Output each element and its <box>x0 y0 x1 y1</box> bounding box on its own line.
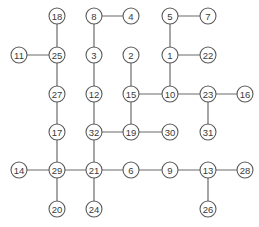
graph-diagram: 1884571125321222712151023161732193031142… <box>0 0 259 227</box>
node-label: 29 <box>52 165 63 176</box>
node-label: 20 <box>52 204 63 215</box>
node-label: 17 <box>52 127 63 138</box>
node-label: 14 <box>14 165 25 176</box>
node-28: 28 <box>237 162 253 178</box>
node-18: 18 <box>49 8 65 24</box>
node-1: 1 <box>162 47 178 63</box>
node-label: 11 <box>14 50 24 61</box>
node-26: 26 <box>200 201 216 217</box>
node-label: 26 <box>203 204 214 215</box>
node-12: 12 <box>86 86 102 102</box>
node-25: 25 <box>49 47 65 63</box>
node-10: 10 <box>162 86 178 102</box>
node-27: 27 <box>49 86 65 102</box>
node-label: 21 <box>89 165 100 176</box>
node-6: 6 <box>123 162 139 178</box>
node-8: 8 <box>86 8 102 24</box>
node-label: 27 <box>52 89 63 100</box>
node-label: 31 <box>203 127 214 138</box>
node-label: 3 <box>91 50 96 61</box>
node-label: 25 <box>52 50 63 61</box>
node-label: 30 <box>165 127 176 138</box>
node-16: 16 <box>237 86 253 102</box>
node-23: 23 <box>200 86 216 102</box>
node-label: 5 <box>167 11 172 22</box>
node-31: 31 <box>200 124 216 140</box>
node-label: 2 <box>128 50 133 61</box>
node-label: 4 <box>128 11 133 22</box>
node-15: 15 <box>123 86 139 102</box>
node-label: 16 <box>240 89 251 100</box>
node-24: 24 <box>86 201 102 217</box>
node-29: 29 <box>49 162 65 178</box>
node-label: 28 <box>240 165 251 176</box>
node-3: 3 <box>86 47 102 63</box>
node-label: 18 <box>52 11 63 22</box>
edges-layer <box>19 16 245 209</box>
node-label: 12 <box>89 89 100 100</box>
node-label: 15 <box>126 89 137 100</box>
node-label: 32 <box>89 127 100 138</box>
node-32: 32 <box>86 124 102 140</box>
node-13: 13 <box>200 162 216 178</box>
node-label: 22 <box>203 50 214 61</box>
node-14: 14 <box>11 162 27 178</box>
node-9: 9 <box>162 162 178 178</box>
node-22: 22 <box>200 47 216 63</box>
node-21: 21 <box>86 162 102 178</box>
nodes-layer: 1884571125321222712151023161732193031142… <box>11 8 253 217</box>
node-7: 7 <box>200 8 216 24</box>
node-label: 23 <box>203 89 214 100</box>
node-17: 17 <box>49 124 65 140</box>
node-19: 19 <box>123 124 139 140</box>
node-label: 8 <box>91 11 96 22</box>
node-label: 13 <box>203 165 214 176</box>
node-label: 1 <box>167 50 172 61</box>
node-label: 19 <box>126 127 137 138</box>
node-label: 6 <box>128 165 133 176</box>
node-label: 24 <box>89 204 100 215</box>
node-2: 2 <box>123 47 139 63</box>
node-5: 5 <box>162 8 178 24</box>
node-11: 11 <box>11 47 27 63</box>
node-20: 20 <box>49 201 65 217</box>
node-label: 7 <box>205 11 210 22</box>
node-label: 10 <box>165 89 176 100</box>
node-label: 9 <box>167 165 172 176</box>
node-4: 4 <box>123 8 139 24</box>
node-30: 30 <box>162 124 178 140</box>
